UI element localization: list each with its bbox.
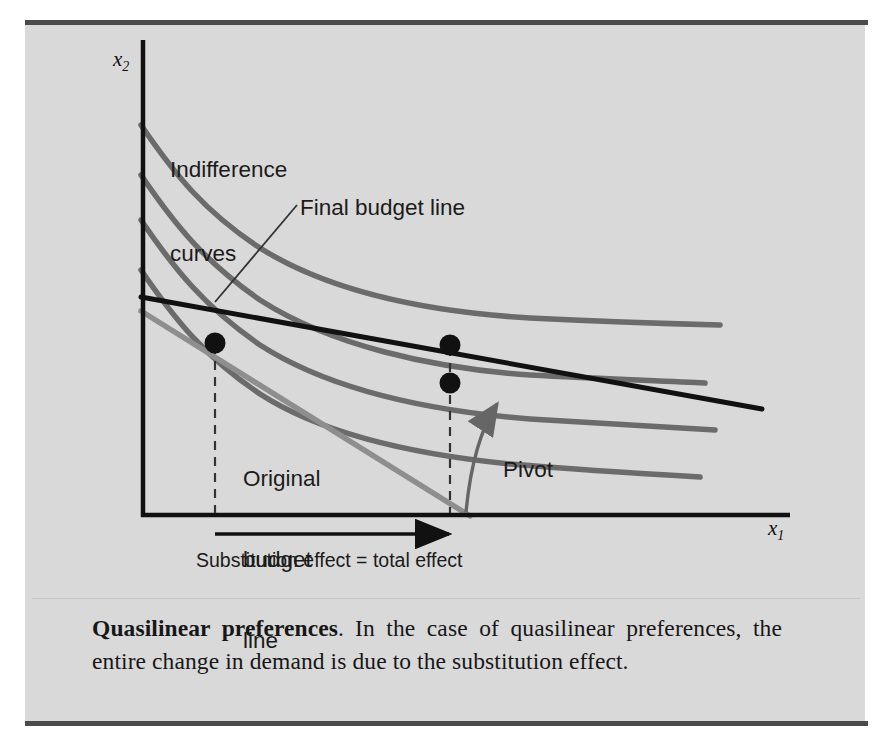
y-axis-label-sub: 2 (122, 59, 129, 74)
indifference-curves-label: Indifference curves (170, 100, 287, 324)
y-axis-label: x2 (113, 47, 129, 75)
final-optimum-dot (440, 335, 461, 356)
caption-title: Quasilinear preferences (92, 615, 338, 641)
x-axis-label-sub: 1 (777, 528, 784, 543)
final-budget-line-label: Final budget line (300, 195, 465, 221)
indifference-curves-label-line2: curves (170, 240, 287, 268)
figure-root: x2 x1 Indifference curves Final budget l… (0, 0, 890, 751)
caption-period: . (338, 615, 344, 641)
pivot-tangency-dot (440, 373, 461, 394)
pivot-label: Pivot (503, 457, 553, 483)
y-axis-label-text: x (113, 47, 122, 71)
original-optimum-dot (205, 333, 226, 354)
original-budget-line-label-line1: Original (243, 465, 321, 492)
substitution-effect-label: Substitution effect = total effect (196, 549, 463, 572)
x-axis-label: x1 (768, 516, 784, 544)
figure-caption: Quasilinear preferences.In the case of q… (92, 612, 782, 678)
x-axis-label-text: x (768, 516, 777, 540)
indifference-curves-label-line1: Indifference (170, 156, 287, 184)
